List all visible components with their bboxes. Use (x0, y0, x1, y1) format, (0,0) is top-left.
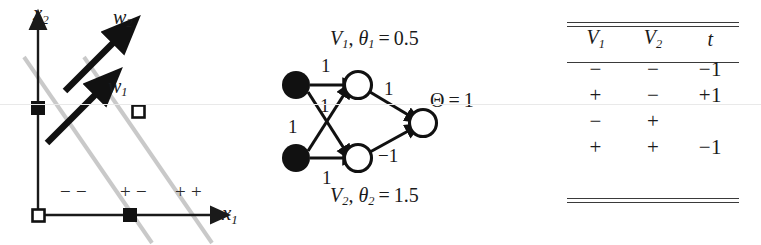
table-rule-bottom-outer (567, 198, 739, 199)
region-label-plus-minus: + − (120, 182, 148, 201)
x-axis-label: x1 (222, 203, 238, 226)
plot-svg (0, 0, 260, 245)
point-open-square-1-1 (133, 106, 145, 118)
truth-table: V1 V2 t − − −1 + − +1 − + (567, 22, 739, 160)
decision-region-plot: x2 x1 w1 w2 − − + − + + (0, 0, 260, 245)
node-hidden-v1 (345, 72, 372, 99)
cell-v1: + (567, 82, 624, 108)
cell-t: −1 (682, 134, 739, 160)
figure-root: x2 x1 w1 w2 − − + − + + (0, 0, 761, 245)
point-open-square-0-0 (33, 210, 45, 222)
point-filled-square-1-0 (123, 208, 137, 222)
weight-label-input2-v2: 1 (322, 168, 332, 187)
weight-label-v2-output: −1 (378, 146, 398, 165)
cell-v1: + (567, 134, 624, 160)
weight-label-v1-output: 1 (384, 79, 394, 98)
table-rule-bottom-inner (567, 202, 739, 203)
y-axis-label: x2 (33, 3, 49, 26)
table-row: + − +1 (567, 82, 739, 108)
node-output (410, 110, 437, 137)
table-header-row: V1 V2 t (567, 22, 739, 56)
cell-v2: − (624, 56, 681, 82)
node-input-1 (282, 71, 310, 99)
vector-label-w2: w2 (113, 7, 133, 30)
cell-v1: − (567, 56, 624, 82)
table-header-t: t (682, 22, 739, 56)
cell-v1: − (567, 108, 624, 134)
table-header-v1: V1 (567, 22, 624, 56)
table-row: − + (567, 108, 739, 134)
table-header-v2: V2 (624, 22, 681, 56)
hidden-unit-1-caption: V1, θ1 = 0.5 (330, 28, 419, 51)
weight-label-input1-v2: 1 (288, 117, 298, 136)
cell-v2: + (624, 134, 681, 160)
cell-v2: − (624, 82, 681, 108)
neural-network-diagram: V1, θ1 = 0.5 V2, θ2 = 1.5 Θ = 1 1 1 1 1 … (260, 0, 510, 245)
table-row: + + −1 (567, 134, 739, 160)
truth-table-panel: V1 V2 t − − −1 + − +1 − + (510, 0, 761, 245)
weight-label-input1-v1: 1 (321, 56, 331, 75)
weight-label-input2-v1: 1 (320, 96, 330, 115)
output-threshold-caption: Θ = 1 (430, 90, 474, 110)
cell-t: −1 (682, 56, 739, 82)
cell-t: +1 (682, 82, 739, 108)
network-nodes (282, 71, 437, 172)
hidden-unit-2-caption: V2, θ2 = 1.5 (330, 185, 419, 208)
region-label-minus-minus: − − (60, 182, 88, 201)
region-label-plus-plus: + + (175, 182, 203, 201)
table-row: − − −1 (567, 56, 739, 82)
point-filled-square-0-1 (31, 101, 45, 115)
vector-label-w1: w1 (108, 76, 128, 99)
node-hidden-v2 (345, 145, 372, 172)
cell-v2: + (624, 108, 681, 134)
node-input-2 (282, 144, 310, 172)
cell-t (682, 108, 739, 134)
